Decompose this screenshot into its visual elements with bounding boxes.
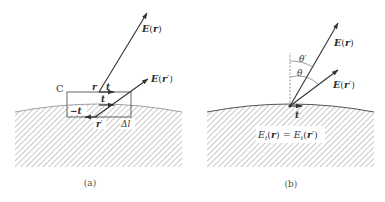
label-point-r: r xyxy=(92,82,98,92)
panel-b: θ′ θ E(r) E(r′) t Et(r) = Et(r′) (b) xyxy=(207,23,374,189)
panel-a: C E(r) E(r′) r t t −t r′ Δl (a) xyxy=(15,13,182,188)
vector-E-r-a xyxy=(99,13,147,92)
figure-canvas: C E(r) E(r′) r t t −t r′ Δl (a) xyxy=(0,0,385,202)
caption-a: (a) xyxy=(84,178,96,188)
label-t-top: t xyxy=(106,82,111,92)
label-minus-t: −t xyxy=(70,106,83,116)
label-point-r-prime: r′ xyxy=(96,119,103,129)
label-E-r-b: E(r) xyxy=(333,37,354,48)
vector-E-r-b xyxy=(290,23,338,106)
label-E-r-prime-a: E(r′) xyxy=(150,73,173,84)
angle-arc-theta xyxy=(290,76,321,85)
label-E-r-prime-b: E(r′) xyxy=(332,79,355,90)
label-delta-l: Δl xyxy=(120,119,130,129)
label-t-middle: t xyxy=(101,94,106,104)
label-E-r-a: E(r) xyxy=(141,23,162,34)
label-theta-prime: θ′ xyxy=(299,54,306,64)
label-theta: θ xyxy=(297,68,303,78)
contour-label: C xyxy=(56,83,64,94)
caption-b: (b) xyxy=(285,179,298,189)
conductor-region-a xyxy=(15,104,182,167)
